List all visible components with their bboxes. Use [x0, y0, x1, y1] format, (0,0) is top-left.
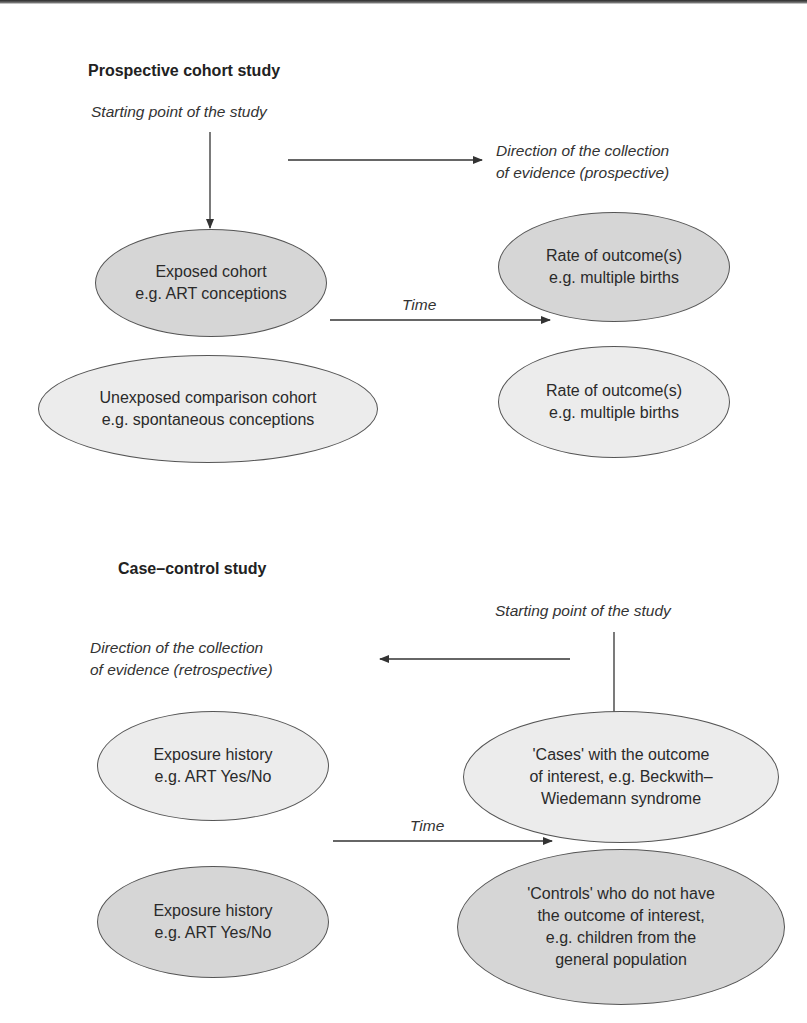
controls-node: 'Controls' who do not havethe outcome of…: [457, 849, 785, 1005]
case-control-starting-point: Starting point of the study: [495, 600, 671, 622]
exposed-cohort-node: Exposed cohorte.g. ART conceptions: [95, 229, 327, 337]
prospective-time-label: Time: [402, 294, 436, 316]
prospective-starting-point: Starting point of the study: [91, 101, 267, 123]
exposure-history-controls-node: Exposure historye.g. ART Yes/No: [97, 866, 329, 978]
prospective-direction-label: Direction of the collection of evidence …: [496, 140, 669, 184]
cases-node: 'Cases' with the outcomeof interest, e.g…: [463, 711, 779, 843]
exposure-history-cases-node: Exposure historye.g. ART Yes/No: [97, 711, 329, 821]
unexposed-cohort-node: Unexposed comparison cohorte.g. spontane…: [38, 355, 378, 463]
outcome-exposed-node: Rate of outcome(s)e.g. multiple births: [498, 212, 730, 322]
outcome-unexposed-node: Rate of outcome(s)e.g. multiple births: [498, 346, 730, 458]
case-control-title: Case–control study: [118, 560, 266, 578]
prospective-title: Prospective cohort study: [88, 62, 280, 80]
case-control-direction-label: Direction of the collection of evidence …: [90, 637, 273, 681]
case-control-time-label: Time: [410, 815, 444, 837]
